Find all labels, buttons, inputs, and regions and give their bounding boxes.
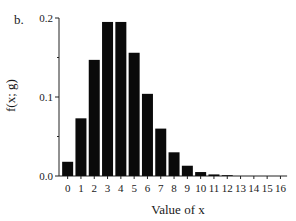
x-tick-label: 10 (195, 182, 207, 194)
x-tick-label: 8 (171, 182, 177, 194)
bar (208, 174, 219, 176)
y-tick-label: 0.0 (39, 170, 53, 182)
bar (182, 166, 193, 176)
x-tick-label: 11 (209, 182, 220, 194)
x-tick-label: 15 (262, 182, 274, 194)
x-tick-label: 5 (131, 182, 137, 194)
x-tick-label: 6 (145, 182, 151, 194)
bar (222, 175, 233, 176)
bar (102, 22, 113, 176)
x-tick-label: 0 (65, 182, 71, 194)
y-tick-label: 0.2 (39, 12, 53, 24)
x-tick-label: 4 (118, 182, 124, 194)
x-tick-label: 1 (78, 182, 84, 194)
x-tick-label: 7 (158, 182, 164, 194)
bar (75, 118, 86, 176)
x-tick-label: 3 (105, 182, 111, 194)
bar (155, 129, 166, 176)
x-tick-label: 2 (92, 182, 98, 194)
bar (89, 60, 100, 176)
x-tick-label: 13 (235, 182, 247, 194)
x-tick-label: 14 (248, 182, 260, 194)
y-tick-label: 0.1 (39, 91, 53, 103)
bar (142, 94, 153, 176)
x-tick-label: 9 (185, 182, 191, 194)
x-tick-label: 16 (275, 182, 287, 194)
x-tick-label: 12 (222, 182, 233, 194)
bar (115, 22, 126, 176)
bar (169, 152, 180, 176)
bar (129, 53, 140, 176)
bar (195, 172, 206, 176)
bar (62, 162, 73, 176)
bar-chart: 0.00.10.2012345678910111213141516 (0, 0, 296, 221)
